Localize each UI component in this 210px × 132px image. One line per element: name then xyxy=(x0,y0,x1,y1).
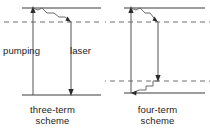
four-term-diagram-graphic xyxy=(105,0,210,104)
figure-root: pumping laser xyxy=(0,0,210,132)
pumping-arrow-head xyxy=(30,6,35,13)
pumping-label: pumping xyxy=(3,45,40,56)
pumping-arrow-head xyxy=(128,6,133,13)
nonradiative-decay-zigzag xyxy=(33,8,69,20)
caption-four-term-scheme: four-term scheme xyxy=(105,104,210,126)
caption-four-term-line1: four-term xyxy=(105,104,210,115)
caption-three-term-scheme: three-term scheme xyxy=(0,104,105,126)
caption-four-term-line2: scheme xyxy=(105,115,210,126)
upper-nonradiative-decay-zigzag xyxy=(131,8,156,20)
lower-nonradiative-decay-zigzag xyxy=(135,81,158,92)
caption-three-term-line1: three-term xyxy=(0,104,105,115)
laser-label: laser xyxy=(70,45,91,56)
caption-three-term-line2: scheme xyxy=(0,115,105,126)
lower-nonradiative-decay-arrow-head xyxy=(131,90,137,95)
